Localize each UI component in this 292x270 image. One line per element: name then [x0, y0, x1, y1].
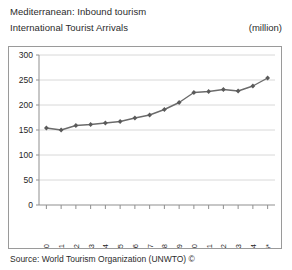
x-axis-tick-label: 1994 [101, 244, 110, 248]
x-axis-tick-label: 1998 [160, 244, 169, 248]
data-series-group [44, 76, 270, 133]
x-axis-tick-label: 2005* [264, 244, 273, 248]
y-axis-tick-label: 50 [24, 175, 34, 185]
source-note: Source: World Tourism Organization (UNWT… [10, 254, 195, 264]
x-axis-tick-label: 2003 [234, 244, 243, 248]
data-point-marker [206, 89, 211, 94]
data-point-marker [147, 113, 152, 118]
y-axis-unit-label: (million) [249, 22, 282, 33]
data-point-marker [73, 123, 78, 128]
chart-title-primary: Mediterranean: Inbound tourism [10, 6, 146, 17]
x-axis-tick-label: 1992 [72, 244, 81, 248]
x-axis-tick-label: 1990 [42, 244, 51, 248]
y-axis-tick-label: 200 [19, 100, 33, 110]
data-point-marker [236, 89, 241, 94]
x-axis-tick-label: 2002 [219, 244, 228, 248]
data-point-marker [88, 122, 93, 127]
y-axis-tick-label: 250 [19, 75, 33, 85]
gridlines-group [39, 55, 275, 205]
x-axis-tick-label: 1999 [175, 244, 184, 248]
y-axis-tick-label: 0 [28, 200, 33, 210]
y-axis-group: 050100150200250300 [19, 50, 39, 210]
plot-frame: 050100150200250300 199019911992199319941… [8, 46, 282, 249]
y-axis-tick-label: 100 [19, 150, 33, 160]
y-axis-tick-label: 300 [19, 50, 33, 60]
chart-figure: Mediterranean: Inbound tourism Internati… [0, 0, 292, 270]
x-axis-tick-label: 1996 [131, 244, 140, 248]
data-point-marker [118, 119, 123, 124]
chart-title-secondary: International Tourist Arrivals [10, 22, 128, 33]
line-chart-canvas: 050100150200250300 199019911992199319941… [9, 47, 281, 248]
x-axis-tick-label: 1991 [57, 244, 66, 248]
y-axis-tick-label: 150 [19, 125, 33, 135]
data-point-marker [221, 87, 226, 92]
x-axis-tick-label: 1995 [116, 244, 125, 248]
data-point-marker [59, 128, 64, 133]
x-axis-tick-label: 1997 [146, 244, 155, 248]
x-axis-group: 1990199119921993199419951996199719981999… [42, 205, 272, 248]
data-point-marker [103, 121, 108, 126]
data-point-marker [162, 107, 167, 112]
series-line [46, 78, 267, 130]
x-axis-tick-label: 2001 [205, 244, 214, 248]
x-axis-tick-label: 2000 [190, 244, 199, 248]
data-point-marker [132, 116, 137, 121]
x-axis-tick-label: 2004 [249, 244, 258, 248]
x-axis-tick-label: 1993 [87, 244, 96, 248]
